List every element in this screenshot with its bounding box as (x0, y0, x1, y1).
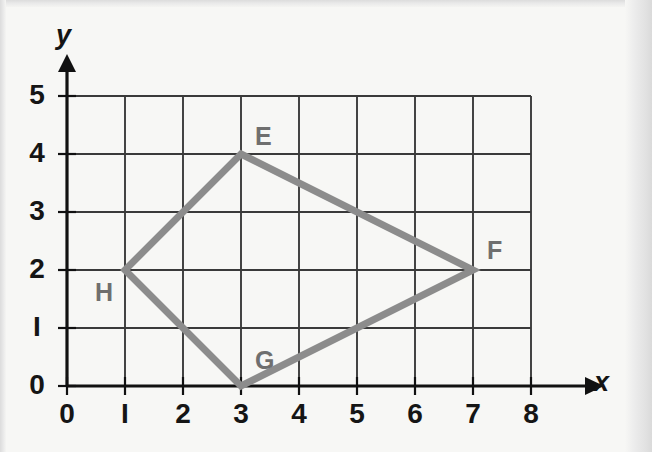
y-tick-label: 2 (22, 255, 52, 283)
y-tick-label: I (22, 313, 52, 341)
y-tick-label: 3 (22, 197, 52, 225)
vertex-label-e: E (255, 124, 272, 149)
y-axis-label: y (56, 22, 71, 49)
y-tick-label: 5 (22, 81, 52, 109)
x-tick-label: I (110, 400, 140, 428)
coordinate-plot (0, 0, 652, 452)
x-tick-label: 5 (342, 400, 372, 428)
x-tick-label: 4 (284, 400, 314, 428)
y-tick-label: 0 (22, 371, 52, 399)
x-tick-label: 0 (52, 400, 82, 428)
x-tick-label: 7 (458, 400, 488, 428)
x-axis-label: x (594, 369, 609, 396)
vertex-label-f: F (487, 238, 502, 263)
x-tick-label: 6 (400, 400, 430, 428)
x-tick-label: 3 (226, 400, 256, 428)
figure-canvas: x y 0I2345678 0I2345 EFGH (0, 0, 652, 452)
y-axis-arrowhead (58, 54, 76, 72)
vertex-label-h: H (95, 280, 113, 305)
y-tick-label: 4 (22, 139, 52, 167)
x-tick-label: 2 (168, 400, 198, 428)
x-tick-label: 8 (516, 400, 546, 428)
vertex-label-g: G (255, 348, 274, 373)
